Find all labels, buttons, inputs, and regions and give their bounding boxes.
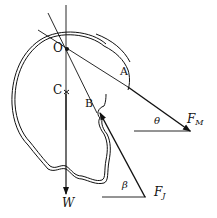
label-FJ: FJ [154, 186, 166, 198]
skull-force-diagram: O C A B W FM FJ θ β [0, 0, 217, 218]
pivot-point-O [65, 47, 69, 51]
label-beta: β [122, 180, 128, 190]
label-A: A [120, 66, 128, 77]
label-FJ-sub: J [162, 191, 165, 200]
label-O: O [53, 42, 63, 54]
label-FM: FM [187, 113, 204, 125]
label-FM-sub: M [195, 118, 203, 127]
line-O-A [38, 30, 128, 87]
skull-outline [12, 32, 130, 184]
label-B: B [85, 98, 93, 109]
jaw-hook [98, 94, 106, 118]
label-theta: θ [154, 116, 160, 126]
label-C: C [53, 84, 62, 96]
diagram-drawing [0, 0, 217, 218]
label-W: W [62, 197, 74, 209]
center-mark-C [64, 90, 69, 94]
